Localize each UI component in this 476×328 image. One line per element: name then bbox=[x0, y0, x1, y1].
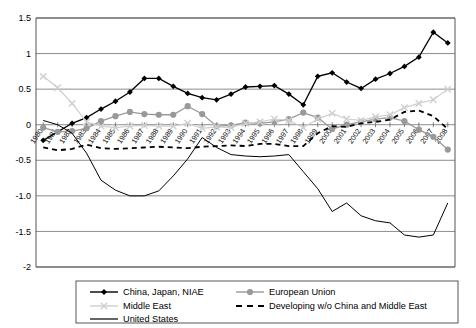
data-point-marker bbox=[40, 124, 46, 130]
y-tick-label: 0 bbox=[26, 120, 31, 130]
data-point-marker bbox=[69, 120, 75, 126]
global-imbalances-line-chart: 1.510.50-0.5-1.0-1.5-2 19801981198219831… bbox=[0, 0, 476, 328]
data-point-marker bbox=[112, 113, 118, 119]
y-tick-label: -1.0 bbox=[15, 191, 31, 201]
y-tick-label: -0.5 bbox=[15, 155, 31, 165]
data-point-marker bbox=[401, 118, 407, 124]
x-tick-label: 1990 bbox=[173, 127, 190, 146]
x-tick-label: 2003 bbox=[361, 127, 378, 146]
x-tick-label: 1996 bbox=[259, 127, 276, 146]
data-point-marker bbox=[228, 91, 234, 97]
data-point-marker bbox=[170, 112, 176, 118]
data-point-marker bbox=[55, 129, 61, 135]
data-point-marker bbox=[257, 83, 263, 89]
y-tick-label: 1.5 bbox=[18, 13, 31, 23]
data-point-marker bbox=[170, 83, 176, 89]
y-tick-label: 0.5 bbox=[18, 84, 31, 94]
data-point-marker bbox=[401, 104, 407, 110]
legend-label: European Union bbox=[269, 287, 335, 297]
data-point-marker bbox=[83, 125, 89, 131]
y-axis-tick-labels: 1.510.50-0.5-1.0-1.5-2 bbox=[15, 13, 31, 272]
data-point-marker bbox=[185, 91, 191, 97]
data-point-marker bbox=[127, 109, 133, 115]
x-tick-label: 1987 bbox=[129, 127, 146, 146]
chart-container: 1.510.50-0.5-1.0-1.5-2 19801981198219831… bbox=[0, 0, 476, 328]
data-point-marker bbox=[54, 85, 60, 91]
data-point-marker bbox=[300, 110, 306, 116]
x-tick-label: 1989 bbox=[158, 127, 175, 146]
data-point-marker bbox=[156, 112, 162, 118]
data-point-marker bbox=[271, 83, 277, 89]
data-point-marker bbox=[416, 127, 422, 133]
y-tick-label: -1.5 bbox=[15, 227, 31, 237]
data-point-marker bbox=[69, 100, 75, 106]
x-tick-label: 2005 bbox=[389, 127, 406, 146]
chart-legend: China, Japan, NIAEEuropean UnionMiddle E… bbox=[76, 281, 458, 324]
legend-marker-circle bbox=[247, 289, 253, 295]
data-point-marker bbox=[315, 73, 321, 79]
x-tick-label: 1998 bbox=[288, 127, 305, 146]
data-point-marker bbox=[329, 110, 335, 116]
x-tick-label: 2004 bbox=[375, 127, 392, 146]
data-point-marker bbox=[387, 71, 393, 77]
x-tick-label: 2002 bbox=[346, 127, 363, 146]
data-point-marker bbox=[185, 103, 191, 109]
x-tick-label: 1995 bbox=[245, 127, 262, 146]
data-point-marker bbox=[199, 111, 205, 117]
y-tick-label: 1 bbox=[26, 49, 31, 59]
x-tick-label: 1985 bbox=[100, 127, 117, 146]
legend-label: Developing w/o China and Middle East bbox=[269, 301, 427, 311]
data-point-marker bbox=[445, 147, 451, 153]
legend-label: Middle East bbox=[123, 301, 171, 311]
data-point-marker bbox=[156, 76, 162, 82]
y-tick-label: -2 bbox=[23, 262, 31, 272]
legend-label: China, Japan, NIAE bbox=[123, 287, 204, 297]
legend-label: United States bbox=[123, 314, 179, 324]
data-point-marker bbox=[199, 95, 205, 101]
x-tick-label: 1997 bbox=[274, 127, 291, 146]
data-point-marker bbox=[141, 111, 147, 117]
data-point-marker bbox=[430, 134, 436, 140]
x-tick-label: 1988 bbox=[144, 127, 161, 146]
data-point-marker bbox=[214, 97, 220, 103]
data-point-marker bbox=[98, 106, 104, 112]
data-point-marker bbox=[40, 73, 46, 79]
